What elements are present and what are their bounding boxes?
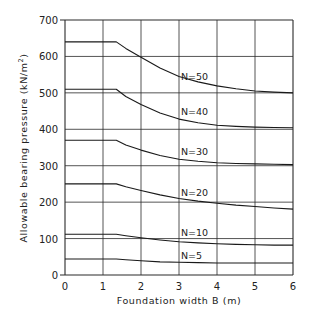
curve-label-n-40: N=40 — [181, 106, 208, 117]
y-tick-label: 100 — [39, 234, 58, 245]
x-tick-label: 4 — [214, 281, 220, 292]
grid-lines — [60, 20, 293, 275]
curve-label-n-30: N=30 — [181, 146, 208, 157]
y-tick-label: 500 — [39, 88, 58, 99]
y-axis-label-main: Allowable bearing pressure (kN/m — [18, 63, 29, 243]
y-tick-label: 0 — [52, 270, 58, 281]
curve-label-n-50: N=50 — [181, 71, 208, 82]
y-axis-label: Allowable bearing pressure (kN/m2) — [17, 53, 29, 242]
y-tick-label: 300 — [39, 161, 58, 172]
y-tick-label: 700 — [39, 15, 58, 26]
x-tick-label: 0 — [62, 281, 68, 292]
x-axis-ticks: 0123456 — [62, 281, 296, 292]
x-tick-label: 2 — [138, 281, 144, 292]
x-tick-label: 6 — [290, 281, 296, 292]
y-axis-ticks: 0100200300400500600700 — [39, 15, 58, 281]
y-axis-label-close: ) — [18, 53, 29, 57]
x-axis-label: Foundation width B (m) — [117, 295, 242, 306]
y-tick-label: 200 — [39, 197, 58, 208]
curve-label-n-10: N=10 — [181, 227, 208, 238]
x-tick-label: 3 — [176, 281, 182, 292]
y-tick-label: 400 — [39, 124, 58, 135]
curve-label-n-20: N=20 — [181, 187, 208, 198]
x-tick-label: 5 — [252, 281, 258, 292]
bearing-pressure-chart: N=50N=40N=30N=20N=10N=5 0123456 01002003… — [0, 0, 311, 319]
y-tick-label: 600 — [39, 51, 58, 62]
curve-label-n-5: N=5 — [181, 250, 202, 261]
x-tick-label: 1 — [100, 281, 106, 292]
